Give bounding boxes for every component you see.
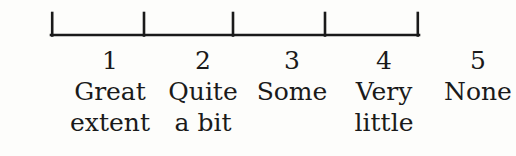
scale-point-label-line2: a bit <box>144 107 262 138</box>
scale-point-number: 5 <box>419 46 516 76</box>
scale-point-label-line2: little <box>325 107 443 138</box>
scale-point-list: 1 Great extent 2 Quite a bit 3 Some 4 Ve… <box>0 46 466 156</box>
scale-axis <box>0 0 466 46</box>
scale-point-label-line1: None <box>419 76 516 107</box>
axis-svg <box>0 0 466 46</box>
scale-point-5: 5 None <box>419 46 516 107</box>
